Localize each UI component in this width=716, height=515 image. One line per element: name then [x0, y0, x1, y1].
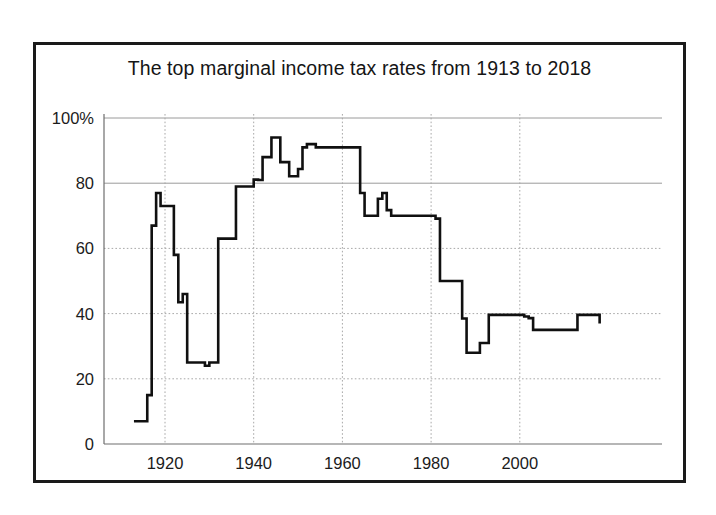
y-axis-tick-label: 40 [76, 305, 94, 323]
x-axis-tick-label: 1920 [147, 454, 184, 472]
axis-lines [104, 114, 662, 444]
y-axis-tick-label: 100% [52, 109, 95, 127]
x-axis-tick-label: 2000 [501, 454, 538, 472]
figure-canvas: The top marginal income tax rates from 1… [0, 0, 716, 515]
line-chart-svg: 020406080100% 19201940196019802000 [0, 0, 716, 515]
y-axis-tick-label: 60 [76, 239, 94, 257]
y-axis-tick-label: 20 [76, 370, 94, 388]
y-axis-tick-label: 80 [76, 174, 94, 192]
x-axis-tick-labels: 19201940196019802000 [147, 454, 539, 472]
y-axis-tick-label: 0 [85, 435, 94, 453]
y-axis-tick-labels: 020406080100% [52, 109, 95, 453]
plot-area: 020406080100% 19201940196019802000 [0, 0, 716, 515]
x-axis-tick-label: 1960 [324, 454, 361, 472]
x-axis-tick-label: 1980 [413, 454, 450, 472]
grid-lines [104, 114, 662, 444]
x-axis-tick-label: 1940 [235, 454, 272, 472]
